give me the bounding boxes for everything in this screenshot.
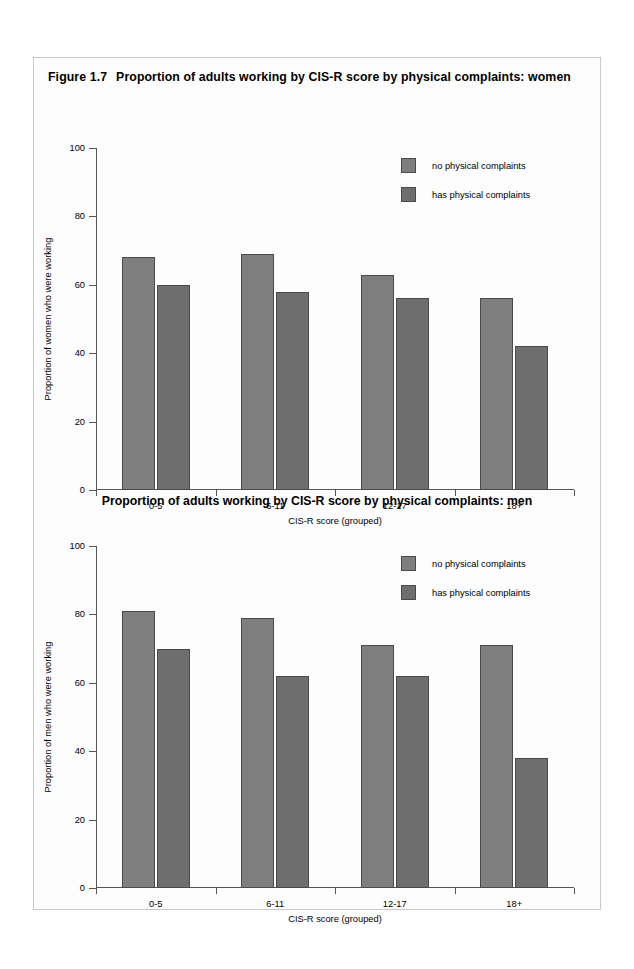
- legend-label: no physical complaints: [432, 161, 526, 171]
- x-tick: [216, 888, 217, 894]
- bar: [396, 676, 429, 888]
- x-tick: [96, 888, 97, 894]
- bar: [122, 611, 155, 888]
- y-tick-label: 40: [75, 746, 85, 756]
- y-tick-label: 100: [69, 143, 85, 153]
- x-tick: [574, 888, 575, 894]
- bar: [241, 254, 274, 490]
- y-tick: [89, 820, 96, 821]
- y-tick: [89, 614, 96, 615]
- legend-item-no-physical-complaints: no physical complaints: [401, 158, 530, 173]
- legend-item-has-physical-complaints: has physical complaints: [401, 585, 530, 600]
- legend-item-no-physical-complaints: no physical complaints: [401, 556, 530, 571]
- y-tick-label: 20: [75, 815, 85, 825]
- legend-swatch-icon: [401, 556, 416, 571]
- y-tick: [89, 683, 96, 684]
- legend-label: has physical complaints: [432, 190, 530, 200]
- y-tick-label: 80: [75, 609, 85, 619]
- y-axis-title-women: Proportion of women who were working: [43, 238, 53, 401]
- y-tick: [89, 751, 96, 752]
- chart-men-title: Proportion of adults working by CIS-R sc…: [34, 494, 600, 508]
- y-tick-label: 40: [75, 348, 85, 358]
- y-tick: [89, 216, 96, 217]
- y-tick-label: 100: [69, 541, 85, 551]
- bar: [122, 257, 155, 490]
- figure-card: Figure 1.7Proportion of adults working b…: [33, 57, 601, 910]
- page: Figure 1.7Proportion of adults working b…: [0, 0, 634, 969]
- x-tick-label: 0-5: [149, 899, 162, 909]
- y-tick-label: 60: [75, 280, 85, 290]
- legend-item-has-physical-complaints: has physical complaints: [401, 187, 530, 202]
- bar: [276, 292, 309, 490]
- legend-label: has physical complaints: [432, 588, 530, 598]
- bar: [361, 645, 394, 888]
- y-tick: [89, 490, 96, 491]
- y-axis-women: [96, 148, 97, 490]
- x-axis-title-men: CIS-R score (grouped): [96, 914, 574, 924]
- y-tick: [89, 353, 96, 354]
- legend-swatch-icon: [401, 187, 416, 202]
- bar: [480, 298, 513, 490]
- x-tick-label: 12-17: [383, 899, 407, 909]
- bar: [515, 346, 548, 490]
- y-tick-label: 0: [80, 883, 85, 893]
- y-tick: [89, 888, 96, 889]
- chart-men: Proportion of adults working by CIS-R sc…: [34, 494, 600, 906]
- legend-swatch-icon: [401, 585, 416, 600]
- figure-title-text: Proportion of adults working by CIS-R sc…: [116, 70, 571, 84]
- y-tick: [89, 285, 96, 286]
- chart-women: Proportion of women who were working CIS…: [34, 96, 600, 506]
- x-tick: [335, 888, 336, 894]
- y-tick-label: 60: [75, 678, 85, 688]
- y-axis-men: [96, 546, 97, 888]
- bar: [396, 298, 429, 490]
- bar: [157, 649, 190, 888]
- y-tick-label: 20: [75, 417, 85, 427]
- y-tick: [89, 546, 96, 547]
- bar: [241, 618, 274, 888]
- y-tick: [89, 148, 96, 149]
- bar: [276, 676, 309, 888]
- legend-men: no physical complaints has physical comp…: [401, 556, 530, 614]
- bar: [157, 285, 190, 490]
- y-axis-title-men: Proportion of men who were working: [43, 642, 53, 793]
- x-tick: [455, 888, 456, 894]
- bar: [480, 645, 513, 888]
- x-tick-label: 18+: [506, 899, 522, 909]
- y-tick: [89, 422, 96, 423]
- figure-number: Figure 1.7: [48, 70, 107, 84]
- legend-swatch-icon: [401, 158, 416, 173]
- legend-women: no physical complaints has physical comp…: [401, 158, 530, 216]
- figure-title: Figure 1.7Proportion of adults working b…: [48, 70, 571, 84]
- y-tick-label: 80: [75, 211, 85, 221]
- legend-label: no physical complaints: [432, 559, 526, 569]
- x-tick-label: 6-11: [266, 899, 284, 909]
- bar: [361, 275, 394, 490]
- bar: [515, 758, 548, 888]
